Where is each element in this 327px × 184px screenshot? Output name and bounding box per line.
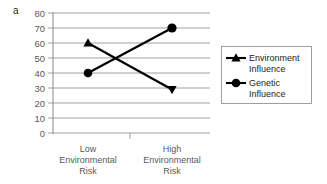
xtick-label-high-line2: Environmental xyxy=(143,155,201,165)
legend-label-genetic-line2: Influence xyxy=(249,89,286,99)
ytick-label-60: 60 xyxy=(34,38,45,49)
gridlines xyxy=(53,13,210,133)
figure-container: a 80 xyxy=(0,0,327,184)
circle-icon xyxy=(232,79,241,88)
series-environment-influence xyxy=(83,38,176,94)
circle-marker-genetic-low xyxy=(84,69,93,78)
xtick-label-high-line1: High xyxy=(163,144,182,154)
x-axis-tick-labels: Low Environmental Risk High Environmenta… xyxy=(59,144,201,176)
ytick-label-70: 70 xyxy=(34,23,45,34)
ytick-label-40: 40 xyxy=(34,68,45,79)
xtick-label-high-line3: Risk xyxy=(163,166,181,176)
chart-legend: Environment Influence Genetic Influence xyxy=(222,47,312,104)
ytick-label-80: 80 xyxy=(34,8,45,19)
series-genetic-influence xyxy=(84,23,177,77)
legend-label-environment-line1: Environment xyxy=(249,53,300,63)
triangle-marker-environment-high xyxy=(167,86,176,94)
ytick-label-10: 10 xyxy=(34,113,45,124)
xtick-label-low-line3: Risk xyxy=(79,166,97,176)
legend-label-genetic-line1: Genetic xyxy=(249,78,281,88)
line-chart: 80 70 60 50 40 30 20 10 0 Low Environme xyxy=(0,0,327,184)
ytick-label-0: 0 xyxy=(40,128,45,139)
triangle-marker-environment-low xyxy=(83,38,92,46)
ytick-label-30: 30 xyxy=(34,83,45,94)
y-axis-tick-labels: 80 70 60 50 40 30 20 10 0 xyxy=(34,8,45,139)
xtick-label-low-line2: Environmental xyxy=(59,155,117,165)
circle-marker-genetic-high xyxy=(167,23,176,32)
legend-label-environment-line2: Influence xyxy=(249,64,286,74)
ytick-label-50: 50 xyxy=(34,53,45,64)
xtick-label-low-line1: Low xyxy=(80,144,97,154)
ytick-label-20: 20 xyxy=(34,98,45,109)
y-axis-ticks xyxy=(48,13,53,133)
